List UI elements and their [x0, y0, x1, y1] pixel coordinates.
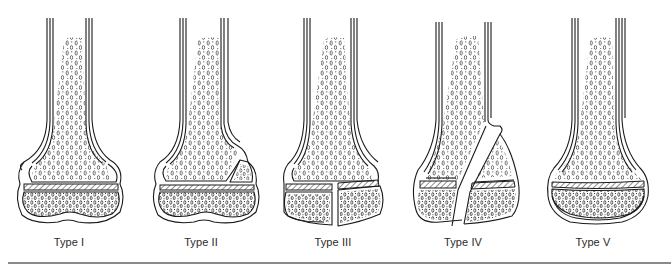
panel-type-3: Type III [266, 0, 400, 260]
panel-type-2: Type II [134, 0, 268, 260]
panel-label: Type I [2, 236, 136, 248]
bone-illustration-type-2 [134, 0, 268, 235]
panel-label: Type III [266, 236, 400, 248]
bone-illustration-type-1 [2, 0, 136, 235]
panel-label: Type IV [396, 236, 530, 248]
panel-type-4: Type IV [396, 0, 530, 260]
panel-type-1: Type I [2, 0, 136, 260]
panel-label: Type V [526, 236, 660, 248]
bone-illustration-type-3 [266, 0, 400, 235]
panel-label: Type II [134, 236, 268, 248]
bone-illustration-type-5 [526, 0, 660, 235]
bone-illustration-type-4 [396, 0, 530, 235]
salter-harris-figure: Type I Type II [0, 0, 671, 267]
panel-type-5: Type V [526, 0, 660, 260]
bottom-divider [8, 262, 671, 264]
